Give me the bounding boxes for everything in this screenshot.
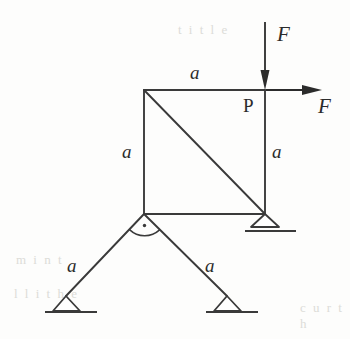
joint-label-p: P — [243, 96, 254, 115]
dimension-label-right-leg: a — [205, 256, 215, 275]
right-arrow-icon — [266, 85, 322, 95]
roller-support-icon — [245, 214, 296, 231]
right-angle-dot-icon — [143, 224, 146, 227]
down-arrow-head — [261, 70, 270, 90]
force-label-vertical: F — [277, 24, 290, 45]
dimension-label-right: a — [272, 142, 282, 161]
pin-support-left-icon — [45, 296, 97, 312]
pin-support-right-icon — [206, 296, 258, 312]
figure-canvas: t i t l e m i n t l l i t h e c u r t h — [0, 0, 350, 339]
right-angle-marker-icon — [130, 230, 160, 236]
force-label-horizontal: F — [318, 96, 331, 117]
right-leg-member — [144, 214, 227, 296]
dimension-label-left: a — [122, 142, 132, 161]
dimension-label-top: a — [190, 63, 200, 82]
leg-members — [66, 214, 227, 296]
frame-diagram — [0, 0, 350, 339]
dimension-label-left-leg: a — [67, 256, 77, 275]
down-arrow-icon — [261, 22, 270, 90]
left-leg-member — [66, 214, 144, 296]
